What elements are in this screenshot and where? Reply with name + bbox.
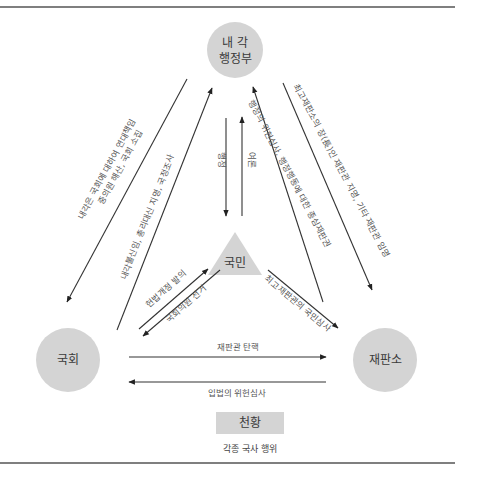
edge-label: 내각불신임, 총리대신 지명, 국정조사 <box>118 153 176 281</box>
cabinet-label-line2: 행정부 <box>219 51 252 66</box>
edge-cabinet-to-people: 행정 <box>217 118 227 216</box>
edge-label: 재판관 탄핵 <box>217 342 260 352</box>
court-label: 재판소 <box>369 353 402 367</box>
edge-label: 입법의 위헌심사 <box>208 388 267 398</box>
cabinet-node: 내 각 행정부 <box>207 22 263 78</box>
diet-node: 국회 <box>36 328 100 392</box>
emperor-label: 천황 <box>239 415 261 430</box>
emperor-node: 천황 각종 국사 행위 <box>216 412 284 454</box>
emperor-caption: 각종 국사 행위 <box>223 443 277 454</box>
edge-people-to-cabinet: 여론 <box>242 117 257 216</box>
court-node: 재판소 <box>353 328 417 392</box>
edge-label: 최고재판소의 장(長)인 재판관 지명, 기타 재판관 임명 <box>292 82 392 258</box>
people-label: 국민 <box>224 256 246 270</box>
people-node: 국민 <box>208 232 262 275</box>
separation-of-powers-diagram: 내 각 행정부 국회 재판소 국민 천황 각종 국사 행위 내각은 국회에 대하… <box>0 0 481 487</box>
edge-diet-to-court: 재판관 탄핵 <box>129 342 326 357</box>
edge-label: 여론 <box>247 152 257 168</box>
cabinet-label-line1: 내 각 <box>222 36 248 50</box>
edge-court-to-diet: 입법의 위헌심사 <box>129 382 326 398</box>
edge-people-to-court: 최고재판관의 국민심사 <box>263 270 338 334</box>
edge-label: 내각은 국회에 대하여 연대책임 <box>76 117 138 220</box>
edge-label: 행정 <box>217 152 227 168</box>
edge-label: 최고재판관의 국민심사 <box>263 273 333 334</box>
diet-label: 국회 <box>57 353 79 367</box>
